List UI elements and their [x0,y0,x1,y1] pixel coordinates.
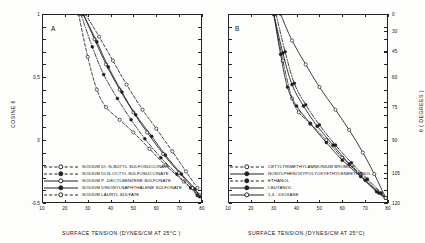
panel-b-legend-label: NONYLPHENOXYPOLYOXYETHYLENEETHANOL [264,171,371,176]
panel-b-ytick-minor [229,77,232,78]
panel-a-xtick-top-30 [88,14,89,17]
panel-b-legend-label: ETHANOL [264,178,289,183]
open-circle-icon [244,192,249,197]
panel-a-ytick-minor-right [198,165,201,166]
panel-b-ytick-minor-right [384,190,387,191]
panel-b-xtick-80 [388,200,389,203]
panel-b-xtick-top-40 [297,14,298,17]
panel-b-yticklabel-0: 0 [392,12,395,17]
panel-a-xtick-80 [202,200,203,203]
panel-a-ytick-minor [43,64,46,65]
panel-a-xtick-top-70 [179,14,180,17]
panel-a-yticklabel-1: 1 [26,12,40,17]
panel-b-xticklabel-10: 10 [225,206,230,211]
panel-a-xtick-top-20 [65,14,66,17]
panel-a-ytick-minor [43,203,46,204]
panel-a-legend-label: SODIUM P -DECYLBENZENE SULFONATE [78,178,171,183]
panel-b-letter: B [235,25,240,32]
panel-b-ytick-minor [229,115,232,116]
panel-b-legend-label: 1,4 - DIOXANE [264,192,299,197]
panel-a-legend-label: SODIUM DI -N-BUTYL SULFOSUCCINATE [78,164,170,169]
panel-b-legend: CETYLTRIMETHYLAMMONIUM BROMIDENONYLPHENO… [230,163,371,198]
panel-b-legend-item: CETYLTRIMETHYLAMMONIUM BROMIDE [230,163,371,170]
panel-b-xtick-top-60 [342,14,343,17]
panel-a-ytick-minor-right [198,102,201,103]
panel-a-ytick-minor-right [198,90,201,91]
panel-a-xaxis-title: SURFACE TENSION (DYNES/CM AT 25°C ) [62,230,181,236]
panel-b-ytick-minor-right [384,127,387,128]
filled-circle-icon [58,185,63,190]
panel-b-yticklabel-105: 105 [392,170,400,175]
panel-a-ytick-minor-right [198,190,201,191]
panel-b-ytick-minor [229,27,232,28]
panel-a-xtick-70 [179,200,180,203]
filled-circle-icon [58,171,63,176]
panel-a-yticklabel-0: 0 [26,138,40,143]
panel-b-yticklabel-60: 60 [392,75,397,80]
panel-b-legend-item: NONYLPHENOXYPOLYOXYETHYLENEETHANOL [230,170,371,177]
panel-a-legend-item: SODIUM DI -N-BUTYL SULFOSUCCINATE [44,163,182,170]
panel-b-ytick-minor [229,52,232,53]
panel-a-ytick-minor-right [198,153,201,154]
panel-a-legend-item: SODIUM DINONYLNAPHTHALENE SULFONATE [44,184,182,191]
panel-b-xtick-top-80 [388,14,389,17]
panel-b-ytick-60 [384,77,388,78]
panel-b-legend-label: CETYLTRIMETHYLAMMONIUM BROMIDE [264,164,355,169]
panel-b-ytick-minor-right [384,39,387,40]
panel-b-ytick-120 [384,203,388,204]
open-circle-icon [58,164,63,169]
filled-circle-icon [244,178,249,183]
panel-a-ytick-minor-right [198,39,201,40]
panel-a-xticklabel-70: 70 [176,206,181,211]
panel-a-ytick-minor-right [198,52,201,53]
open-circle-icon [244,164,249,169]
panel-b-legend-item: I-BUTANOL [230,184,371,191]
panel-a-xticklabel-40: 40 [108,206,113,211]
panel-b-legend-item: 1,4 - DIOXANE [230,191,371,198]
panel-a-xticklabel-10: 10 [39,206,44,211]
panel-a-ytick-minor [43,102,46,103]
panel-b-xtick-top-50 [319,14,320,17]
panel-b-legend-key [230,170,264,177]
panel-b-ytick-75 [384,107,388,108]
panel-b-ytick-minor-right [384,153,387,154]
panel-a-ytick-minor-right [198,27,201,28]
panel-b-legend-key [230,163,264,170]
panel-a-ytick-minor-right [198,203,201,204]
panel-b-ytick-minor-right [384,102,387,103]
open-circle-icon [58,178,63,183]
panel-b-ytick-90 [384,140,388,141]
panel-a-xticklabel-20: 20 [62,206,67,211]
panel-a-xticklabel-80: 80 [199,206,204,211]
panel-b-legend-key [230,177,264,184]
panel-b-legend-label: I-BUTANOL [264,185,292,190]
panel-a-ytick-minor [43,14,46,15]
panel-a-ytick-minor [43,27,46,28]
panel-a-ytick-minor-right [198,115,201,116]
panel-a-xticklabel-50: 50 [131,206,136,211]
panel-a-xticklabel-60: 60 [154,206,159,211]
panel-b-xticklabel-60: 60 [340,206,345,211]
panel-b-xtick-20 [251,200,252,203]
panel-a-xtick-40 [111,200,112,203]
panel-a-xtick-top-60 [156,14,157,17]
panel-a-legend-key [44,184,78,191]
panel-a-xtick-30 [88,200,89,203]
panel-b-yticklabel-30: 30 [392,28,397,33]
panel-b-xticklabel-40: 40 [294,206,299,211]
panel-a-ytick-minor [43,127,46,128]
filled-circle-icon [244,171,249,176]
panel-b-ytick-minor [229,39,232,40]
panel-a-ytick-minor-right [198,140,201,141]
panel-b-ytick-0 [384,14,388,15]
panel-b-xticklabel-50: 50 [317,206,322,211]
panel-b-ytick-minor-right [384,165,387,166]
panel-a-legend-item: SODIUM P -DECYLBENZENE SULFONATE [44,177,182,184]
panel-b-ytick-minor-right [384,27,387,28]
panel-a-xtick-top-50 [133,14,134,17]
panel-a-ytick-minor [43,77,46,78]
panel-b-yticklabel-120: 120 [392,201,400,206]
panel-b-ytick-minor-right [384,52,387,53]
panel-a-xtick-top-40 [111,14,112,17]
panel-b-xtick-40 [297,200,298,203]
